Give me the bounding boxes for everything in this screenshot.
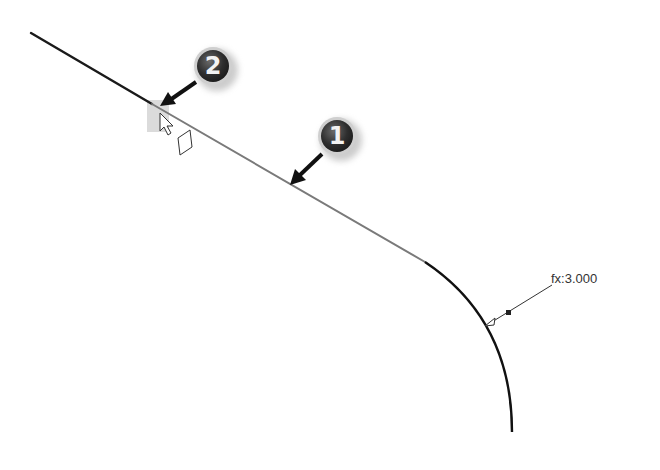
dimension-leader — [487, 285, 552, 325]
callout-2-number: 2 — [203, 52, 223, 80]
sketch-line-segment[interactable] — [31, 33, 152, 104]
callout-1 — [290, 117, 362, 185]
dimension-arrowhead-icon — [485, 318, 495, 326]
sketch-canvas[interactable] — [0, 0, 660, 470]
callout-2-arrow-shaft — [170, 82, 196, 100]
dimension-value-label[interactable]: fx:3.000 — [551, 271, 597, 286]
callout-1-arrow-shaft — [300, 154, 322, 175]
callout-1-number: 1 — [327, 122, 347, 150]
coincident-constraint-icon — [178, 130, 192, 155]
sketch-line-highlighted[interactable] — [152, 104, 425, 262]
dimension-node — [506, 310, 511, 315]
fillet-arc[interactable] — [425, 262, 512, 432]
callout-2 — [160, 47, 238, 106]
